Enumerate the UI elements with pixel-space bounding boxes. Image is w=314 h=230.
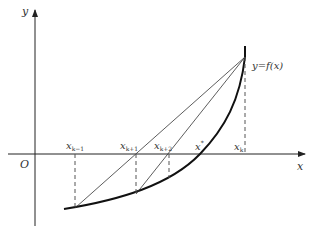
label-x-k: xk [234,141,244,153]
label-x-kp2: xk+2 [154,140,172,152]
curve-label: y=f(x) [251,60,283,71]
function-curve [64,46,245,209]
label-x-kp1: xk+1 [120,140,138,152]
y-axis-label: y [21,5,29,18]
secant-method-diagram: y x O y=f(x) xk−1 xk+1 xk+2 x* xk [0,0,314,230]
secant-line-1 [75,57,245,208]
label-x-km1: xk−1 [66,140,84,152]
x-axis-label: x [297,160,304,173]
secant-line-2 [136,57,245,194]
origin-label: O [20,158,29,171]
